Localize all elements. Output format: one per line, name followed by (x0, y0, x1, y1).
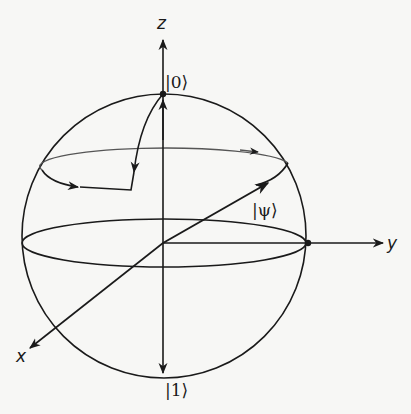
latitude-circle-front (256, 163, 288, 185)
sphere-outline (22, 94, 306, 378)
x-axis (30, 243, 163, 348)
x-axis-label: x (15, 346, 27, 366)
polar-angle-bracket (80, 172, 134, 190)
latitude-circle-back (42, 170, 78, 187)
polar-angle-arc (134, 94, 163, 172)
state-0-label: |0⟩ (165, 72, 188, 92)
y-axis-label: y (386, 233, 398, 253)
state-1-label: |1⟩ (165, 380, 188, 400)
bloch-sphere-diagram: z y x |0⟩ |1⟩ |ψ⟩ (0, 0, 411, 414)
state-psi-label: |ψ⟩ (252, 200, 278, 220)
z-axis-label: z (156, 13, 167, 33)
y-axis-point (305, 240, 311, 246)
